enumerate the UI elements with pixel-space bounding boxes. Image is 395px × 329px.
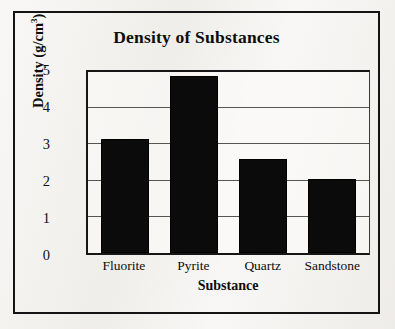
y-axis-tick-label: 3 <box>24 136 50 153</box>
bar-pyrite <box>170 76 218 253</box>
x-axis-tick-label-quartz: Quartz <box>228 258 298 274</box>
x-axis-tick-label-sandstone: Sandstone <box>298 258 368 274</box>
plot-area <box>86 70 370 255</box>
bar-sandstone <box>308 179 356 253</box>
y-axis-label-superscript: 3 <box>29 19 39 24</box>
bar-quartz <box>239 159 287 253</box>
chart-title: Density of Substances <box>15 27 378 48</box>
figure-frame: Density of Substances Density (g/cm3) 01… <box>13 11 380 314</box>
y-axis-tick-label: 2 <box>24 173 50 190</box>
y-axis-tick-label: 0 <box>24 247 50 264</box>
y-axis-label-suffix: ) <box>30 14 46 19</box>
bar-slot <box>229 72 298 253</box>
y-axis-tick-label: 1 <box>24 210 50 227</box>
y-axis-tick-label: 5 <box>24 62 50 79</box>
bar-slot <box>91 72 160 253</box>
x-axis-tick-label-fluorite: Fluorite <box>89 258 159 274</box>
bar-slot <box>297 72 366 253</box>
bar-fluorite <box>101 139 149 253</box>
x-axis-tick-labels: FluoritePyriteQuartzSandstone <box>86 258 370 274</box>
bar-series <box>88 72 369 253</box>
y-axis-label: Density (g/cm3) <box>29 0 47 108</box>
y-axis-tick-label: 4 <box>24 99 50 116</box>
x-axis-tick-label-pyrite: Pyrite <box>159 258 229 274</box>
bar-slot <box>160 72 229 253</box>
x-axis-label: Substance <box>86 278 370 294</box>
